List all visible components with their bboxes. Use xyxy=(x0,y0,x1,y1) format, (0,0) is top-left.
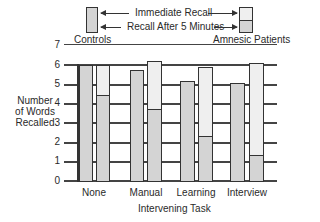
gridline-7 xyxy=(64,44,277,45)
y-tick-4: 4 xyxy=(50,98,60,108)
bar-learning-amnesic xyxy=(198,67,213,182)
bar-none-controls xyxy=(79,65,93,182)
arrow-left-icon xyxy=(101,27,121,28)
bar-learning-amnesic-delayed xyxy=(199,136,212,181)
bar-none-amnesic-immediate xyxy=(97,66,109,95)
bar-interview-amnesic xyxy=(249,63,264,182)
y-tick-5: 5 xyxy=(50,79,60,89)
legend-controls-swatch xyxy=(86,7,98,33)
legend-after-label: Recall After 5 Minutes xyxy=(127,21,224,32)
y-tick-2: 2 xyxy=(50,137,60,147)
arrow-right-icon xyxy=(208,13,237,14)
bar-manual-amnesic-immediate xyxy=(148,62,161,109)
bar-none-amnesic xyxy=(96,65,110,182)
y-tick-7: 7 xyxy=(50,40,60,50)
bar-learning-controls xyxy=(180,81,195,182)
legend-amnesic-swatch xyxy=(239,7,253,33)
x-label-none: None xyxy=(64,187,124,198)
y-tick-6: 6 xyxy=(50,60,60,70)
legend-amnesic-immediate xyxy=(240,8,252,20)
bar-manual-controls xyxy=(130,70,144,182)
legend-immediate-label: Immediate Recall xyxy=(135,7,212,18)
bar-interview-amnesic-immediate xyxy=(250,64,263,155)
arrow-right-icon xyxy=(214,27,237,28)
arrow-left-icon xyxy=(101,13,129,14)
legend-amnesic-delayed xyxy=(240,20,252,32)
bar-interview-amnesic-delayed xyxy=(250,155,263,181)
bar-manual-amnesic-delayed xyxy=(148,109,161,181)
bar-learning-amnesic-immediate xyxy=(199,68,212,136)
bar-manual-amnesic xyxy=(147,61,162,182)
x-label-interview: Interview xyxy=(217,187,277,198)
y-tick-1: 1 xyxy=(50,156,60,166)
y-tick-3: 3 xyxy=(50,118,60,128)
x-axis-title: Intervening Task xyxy=(138,203,211,214)
bar-none-amnesic-delayed xyxy=(97,95,109,181)
bar-interview-controls xyxy=(230,83,245,182)
y-tick-0: 0 xyxy=(50,176,60,186)
